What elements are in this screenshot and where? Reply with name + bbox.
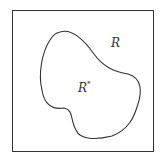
- inner-region-superscript: *: [87, 80, 91, 88]
- region-diagram: R R *: [0, 0, 161, 159]
- outer-region-label: R: [110, 36, 120, 50]
- inner-region-label: R: [77, 81, 87, 95]
